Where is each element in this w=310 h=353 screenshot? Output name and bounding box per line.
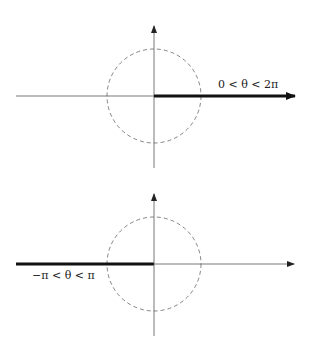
branch-cut-diagrams: 0 < θ < 2π −π < θ < π bbox=[0, 0, 310, 353]
angle-range-label: −π < θ < π bbox=[32, 269, 95, 282]
diagram-bottom: −π < θ < π bbox=[16, 194, 294, 336]
angle-range-label: 0 < θ < 2π bbox=[218, 78, 278, 91]
diagram-top: 0 < θ < 2π bbox=[16, 26, 295, 168]
